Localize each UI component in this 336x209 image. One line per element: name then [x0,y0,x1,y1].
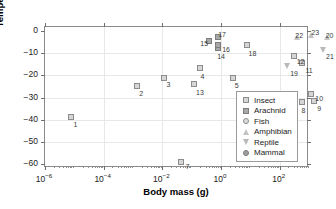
x-tick [104,166,105,170]
x-minor-tick [63,166,64,168]
data-point-label-2: 2 [139,90,143,97]
legend-label-insect: Insect [254,96,275,105]
x-minor-tick [97,166,98,168]
y-tick [41,75,45,76]
x-minor-tick [302,166,303,168]
x-tick-label: 102 [259,171,299,184]
figure: Temperature of crystallisation (°C) 1234… [0,0,336,209]
x-minor-tick [183,166,184,168]
data-point-label-8: 8 [301,107,305,114]
legend-item-fish[interactable]: Fish [241,116,292,127]
y-tick-right [307,75,311,76]
legend-item-mammal[interactable]: Mammal [241,148,292,159]
legend-item-amphibian[interactable]: Amphibian [241,127,292,138]
fish-marker-icon [241,118,251,124]
data-point-label-11: 11 [305,67,312,74]
data-point-5 [230,75,236,81]
x-axis-title: Body mass (g) [44,186,308,197]
y-tick-right [307,164,311,165]
x-minor-tick [288,166,289,168]
legend-item-insect[interactable]: Insect [241,95,292,106]
data-point-4 [197,65,203,71]
x-minor-tick [121,166,122,168]
x-minor-tick [154,166,155,168]
x-minor-tick [151,166,152,168]
data-point-label-17: 17 [218,31,226,38]
data-point-label-13: 13 [196,89,204,96]
data-point-label-5: 5 [235,82,239,89]
x-minor-tick [244,166,245,168]
x-minor-tick [268,166,269,168]
data-point-16 [215,42,221,48]
x-tick-label: 10−2 [141,171,181,184]
legend-label-fish: Fish [254,117,269,126]
x-tick [162,166,163,170]
x-minor-tick [249,166,250,168]
legend-label-reptile: Reptile [254,138,279,147]
x-minor-tick [112,166,113,168]
x-tick [45,166,46,170]
x-minor-tick [66,166,67,168]
data-point-19 [284,63,290,69]
x-minor-tick [235,166,236,168]
arachnid-marker-icon [241,108,251,114]
data-point-label-12: 12 [297,58,305,65]
data-point-label-3: 3 [167,81,171,88]
y-tick [41,120,45,121]
x-minor-tick [259,166,260,168]
amphibian-marker-icon [241,129,251,135]
x-minor-tick [308,166,309,168]
y-tick [41,98,45,99]
x-minor-tick [124,166,125,168]
y-tick-right [307,53,311,54]
y-tick-right [307,142,311,143]
x-minor-tick [95,166,96,168]
mammal-marker-icon [241,150,251,156]
data-point-8 [299,99,305,105]
y-axis-title: Temperature of crystallisation (°C) [0,0,5,30]
x-tick [104,23,105,27]
data-point-label-7: 7 [185,163,189,170]
x-minor-tick [212,166,213,168]
x-tick-label: 100 [200,171,240,184]
legend-label-mammal: Mammal [254,148,285,157]
data-point-label-14: 14 [217,53,225,60]
x-tick [45,23,46,27]
data-point-label-15: 15 [200,40,208,47]
y-tick [41,31,45,32]
x-minor-tick [88,166,89,168]
y-tick-label: −30 [8,93,38,101]
legend-item-arachnid[interactable]: Arachnid [241,106,292,117]
y-tick [41,53,45,54]
data-point-label-21: 21 [326,53,334,60]
x-minor-tick [126,166,127,168]
x-tick [162,23,163,27]
x-minor-tick [214,166,215,168]
x-minor-tick [118,166,119,168]
data-point-label-23: 23 [311,29,319,36]
x-minor-tick [171,166,172,168]
x-minor-tick [132,166,133,168]
y-tick-label: 0 [8,26,38,34]
y-tick-label: −50 [8,137,38,145]
data-point-13 [191,81,197,87]
legend-item-reptile[interactable]: Reptile [241,137,292,148]
x-minor-tick [294,166,295,168]
x-gridline [162,27,163,166]
data-point-label-16: 16 [222,46,230,53]
x-minor-tick [176,166,177,168]
x-tick [280,166,281,170]
legend-label-amphibian: Amphibian [254,127,292,136]
x-minor-tick [271,166,272,168]
x-minor-tick [54,166,55,168]
x-minor-tick [59,166,60,168]
data-point-2 [134,83,140,89]
y-tick-label: −10 [8,48,38,56]
y-tick-label: −60 [8,159,38,167]
x-minor-tick [300,166,301,168]
x-minor-tick [297,166,298,168]
x-minor-tick [200,166,201,168]
legend: InsectArachnidFishAmphibianReptileMammal [236,91,298,162]
data-point-label-10: 10 [315,95,323,102]
x-minor-tick [156,166,157,168]
